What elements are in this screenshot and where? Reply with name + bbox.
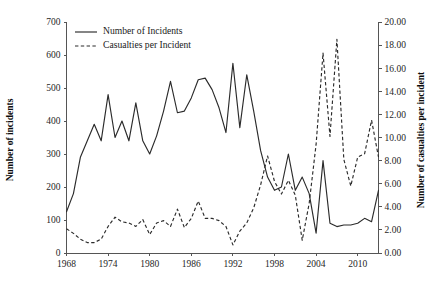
incidents-casualties-line-chart: 19681974198019861992199820042010 0100200…: [0, 0, 433, 283]
chart-legend: Number of IncidentsCasualties per Incide…: [75, 25, 191, 50]
chart-series: [67, 39, 379, 245]
y-axis-right-tick-label: 20.00: [385, 17, 407, 27]
chart-container: 19681974198019861992199820042010 0100200…: [0, 0, 433, 283]
y-axis-right-tick-label: 12.00: [385, 110, 407, 120]
x-axis-tick-label: 1980: [140, 259, 159, 269]
y-axis-left-tick-label: 400: [46, 116, 61, 126]
legend-label: Number of Incidents: [103, 25, 183, 36]
y-axis-left-tick-label: 700: [46, 17, 61, 27]
y-axis-right-title: Number of casualties per incident: [416, 71, 426, 208]
chart-axes: [67, 22, 379, 253]
y-axis-left-tick-label: 100: [46, 215, 61, 225]
x-axis-tick-label: 1998: [265, 259, 284, 269]
y-axis-left-tick-label: 200: [46, 182, 61, 192]
legend-label: Casualties per Incident: [103, 39, 191, 50]
y-axis-right-tick-label: 16.00: [385, 64, 407, 74]
y-axis-right-tick-label: 4.00: [385, 202, 402, 212]
series-line-number-of-incidents: [67, 63, 379, 233]
y-axis-right-tick-label: 0.00: [385, 248, 402, 258]
y-axis-right-tick-label: 10.00: [385, 133, 407, 143]
y-axis-left-tick-label: 0: [56, 248, 61, 258]
y-axis-left-title: Number of incidents: [5, 98, 15, 181]
y-axis-right-tick-label: 14.00: [385, 87, 407, 97]
x-axis-tick-label: 1986: [182, 259, 201, 269]
series-line-casualties-per-incident: [67, 39, 379, 245]
x-axis-ticks: 19681974198019861992199820042010: [57, 253, 367, 269]
x-axis-tick-label: 2010: [348, 259, 367, 269]
y-axis-right-tick-label: 6.00: [385, 179, 402, 189]
y-axis-right-tick-label: 18.00: [385, 40, 407, 50]
y-axis-right-tick-label: 2.00: [385, 225, 402, 235]
y-axis-left-ticks: 0100200300400500600700: [46, 17, 66, 258]
x-axis-tick-label: 2004: [307, 259, 326, 269]
y-axis-left-tick-label: 300: [46, 149, 61, 159]
y-axis-right-ticks: 0.002.004.006.008.0010.0012.0014.0016.00…: [379, 17, 407, 258]
y-axis-left-tick-label: 600: [46, 50, 61, 60]
x-axis-tick-label: 1968: [57, 259, 76, 269]
x-axis-tick-label: 1974: [99, 259, 118, 269]
x-axis-tick-label: 1992: [223, 259, 242, 269]
y-axis-left-tick-label: 500: [46, 83, 61, 93]
y-axis-right-tick-label: 8.00: [385, 156, 402, 166]
